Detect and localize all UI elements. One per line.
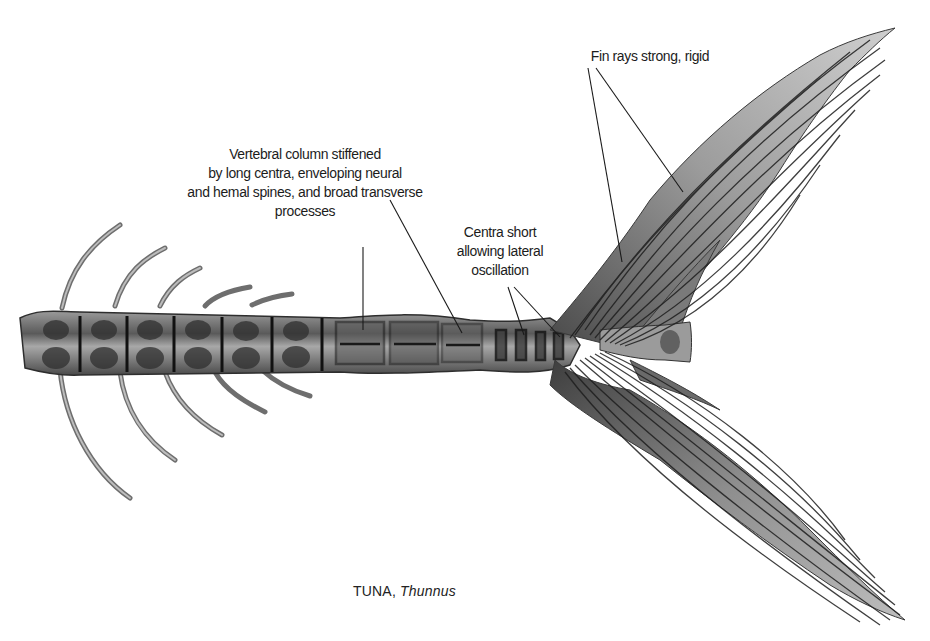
annotation-line: processes: [184, 201, 427, 220]
annotation-centra-short: Centra short allowing lateral oscillatio…: [437, 222, 563, 279]
annotation-line: allowing lateral: [437, 241, 563, 260]
hemal-spines: [60, 370, 310, 498]
annotation-fin-rays: Fin rays strong, rigid: [569, 46, 731, 65]
annotation-line: Vertebral column stiffened: [184, 144, 427, 163]
tuna-tail-illustration: [0, 0, 930, 641]
lower-fin-lobe: [550, 360, 905, 620]
annotation-line: and hemal spines, and broad transverse: [184, 182, 427, 201]
figure-caption: TUNA, Thunnus: [353, 583, 456, 599]
neural-spines: [62, 225, 292, 308]
annotation-line: Centra short: [437, 222, 563, 241]
annotation-line: by long centra, enveloping neural: [184, 163, 427, 182]
caption-genus: Thunnus: [400, 583, 456, 599]
annotation-vertebral-column: Vertebral column stiffened by long centr…: [184, 144, 427, 220]
annotation-line: Fin rays strong, rigid: [569, 46, 731, 65]
annotation-line: oscillation: [437, 260, 563, 279]
leader-fin-rays-2: [596, 68, 683, 192]
long-centra: [336, 322, 482, 364]
caption-common-name: TUNA,: [353, 583, 396, 599]
